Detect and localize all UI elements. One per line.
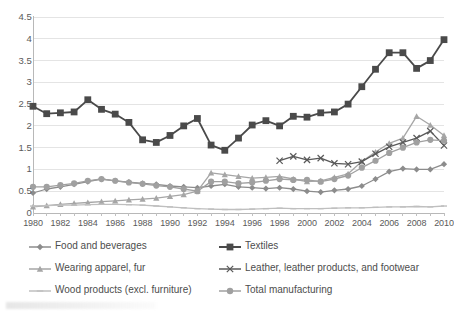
data-point-circle (208, 179, 214, 185)
data-point-square (249, 122, 256, 129)
data-point-circle (71, 180, 77, 186)
legend-item[interactable]: Wearing apparel, fur (28, 260, 145, 274)
data-point-square (413, 65, 420, 72)
data-point-square (331, 109, 338, 116)
y-tick-label: 1.5 (4, 143, 32, 153)
data-point-circle (386, 150, 392, 156)
data-point-circle (181, 186, 187, 192)
data-point-circle (222, 179, 228, 185)
legend-marker-triangle-icon (28, 261, 52, 273)
plot-area: 00.511.522.533.544.5 1980198219841986198… (0, 0, 448, 232)
data-point-square (153, 139, 160, 146)
data-point-circle (98, 176, 104, 182)
data-point-circle (400, 145, 406, 151)
data-point-cross (277, 158, 283, 164)
data-point-square (208, 142, 215, 149)
data-point-square (427, 57, 434, 64)
legend-item[interactable]: Total manufacturing (218, 282, 332, 296)
data-point-diamond (372, 176, 378, 182)
series-line (30, 36, 448, 153)
data-point-square (71, 109, 78, 116)
data-point-diamond (304, 188, 310, 194)
data-point-square (194, 115, 201, 122)
data-point-circle (167, 184, 173, 190)
x-tick-label: 1994 (215, 218, 235, 228)
series-line (30, 113, 447, 209)
data-point-diamond (427, 166, 433, 172)
legend-marker-circle-icon (218, 283, 242, 295)
data-point-circle (126, 179, 132, 185)
data-point-diamond (37, 244, 43, 250)
x-tick-label: 1980 (23, 218, 43, 228)
series-line (30, 204, 447, 209)
y-tick-label: 1 (4, 164, 32, 174)
legend-item[interactable]: Textiles (218, 238, 278, 252)
legend-label: Total manufacturing (245, 284, 332, 295)
data-point-circle (153, 182, 159, 188)
data-point-square (263, 117, 270, 124)
data-point-square (290, 113, 297, 120)
data-point-square (227, 244, 234, 251)
data-point-circle (263, 178, 269, 184)
y-tick-label: 3 (4, 77, 32, 87)
series-path (33, 40, 444, 151)
data-point-circle (427, 137, 433, 143)
data-point-square (112, 111, 119, 118)
data-point-square (57, 109, 64, 116)
data-point-circle (372, 158, 378, 164)
legend-item[interactable]: Wood products (excl. furniture) (28, 282, 192, 296)
data-point-circle (304, 177, 310, 183)
legend-label: Food and beverages (55, 240, 147, 251)
data-point-circle (441, 138, 447, 144)
y-tick-label: 2.5 (4, 99, 32, 109)
page-artifact (6, 302, 156, 309)
legend-item[interactable]: Food and beverages (28, 238, 147, 252)
x-tick-label: 1996 (242, 218, 262, 228)
data-point-circle (345, 172, 351, 178)
data-point-diamond (414, 166, 420, 172)
x-tick-label: 1982 (51, 218, 71, 228)
x-axis-tick-labels: 1980198219841986198819901992199419961998… (0, 215, 448, 231)
data-point-square (400, 49, 407, 56)
data-point-square (98, 106, 105, 113)
data-point-circle (85, 178, 91, 184)
data-point-circle (57, 182, 63, 188)
chart-canvas (0, 0, 448, 232)
data-point-diamond (359, 183, 365, 189)
data-point-circle (331, 176, 337, 182)
data-point-diamond (441, 161, 447, 167)
legend-marker-cross-icon (218, 261, 242, 273)
y-tick-label: 2 (4, 121, 32, 131)
data-point-circle (194, 188, 200, 194)
legend-label: Leather, leather products, and footwear (245, 262, 419, 273)
x-tick-label: 2010 (434, 218, 454, 228)
data-point-square (317, 109, 324, 116)
data-point-square (276, 122, 283, 129)
data-point-square (358, 83, 365, 90)
data-point-circle (277, 176, 283, 182)
x-tick-label: 1984 (78, 218, 98, 228)
data-point-square (441, 36, 448, 43)
legend-label: Textiles (245, 240, 278, 251)
data-point-circle (44, 184, 50, 190)
y-tick-label: 4.5 (4, 12, 32, 22)
x-tick-label: 1988 (133, 218, 153, 228)
data-point-square (43, 110, 50, 117)
y-axis-tick-labels: 00.511.522.533.544.5 (0, 0, 32, 232)
data-point-diamond (400, 165, 406, 171)
data-point-circle (235, 180, 241, 186)
x-tick-label: 1990 (160, 218, 180, 228)
data-point-cross (427, 128, 433, 134)
series-path (33, 116, 444, 207)
legend-label: Wood products (excl. furniture) (55, 284, 192, 295)
data-point-circle (290, 177, 296, 183)
data-point-diamond (331, 187, 337, 193)
legend-marker-square-icon (218, 239, 242, 251)
data-point-square (126, 119, 133, 126)
legend-marker-dash-icon (28, 283, 52, 295)
legend-item[interactable]: Leather, leather products, and footwear (218, 260, 419, 274)
data-point-circle (318, 179, 324, 185)
series-path (33, 204, 444, 209)
data-point-triangle (414, 113, 420, 119)
